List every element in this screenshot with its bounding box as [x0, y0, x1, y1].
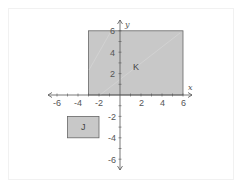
y-axis-name: y: [124, 20, 130, 29]
rectangle-j-label: J: [81, 122, 86, 132]
y-tick-label: 4: [110, 48, 115, 58]
coordinate-plane: K J -6 -4 -2 2 4 6 x: [0, 0, 237, 181]
y-tick-label: 6: [110, 26, 115, 36]
x-tick-label: 2: [139, 98, 144, 108]
x-tick-label: -6: [53, 98, 61, 108]
x-tick-label: 4: [160, 98, 165, 108]
rectangle-k-label: K: [133, 62, 139, 72]
x-axis-name: x: [188, 83, 193, 92]
x-tick-label: -2: [95, 98, 103, 108]
y-tick-label: -6: [108, 155, 116, 165]
x-tick-label: -4: [74, 98, 82, 108]
x-tick-label: 6: [181, 98, 186, 108]
y-tick-label: 2: [110, 69, 115, 79]
y-tick-label: -4: [108, 133, 116, 143]
y-tick-label: -2: [108, 112, 116, 122]
